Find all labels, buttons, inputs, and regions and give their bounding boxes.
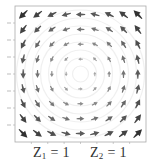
vector-arrow-icon xyxy=(64,87,68,91)
vector-arrow-icon xyxy=(20,114,27,123)
vector-arrow-icon xyxy=(119,130,128,137)
vector-arrow-icon xyxy=(135,40,140,49)
vector-arrow-icon xyxy=(93,87,97,91)
y-tick-label xyxy=(7,56,11,57)
vector-arrow-icon xyxy=(77,42,83,46)
vector-arrow-icon xyxy=(77,116,85,121)
vector-arrow-icon xyxy=(77,102,83,106)
vector-arrow-icon xyxy=(21,40,26,49)
quiver-figure: Z1 = 1 Z2 = 1 xyxy=(0,0,155,167)
y-tick-label xyxy=(7,107,11,108)
caption-z2-value: = 1 xyxy=(104,145,127,160)
vector-arrow-icon xyxy=(134,114,141,123)
vector-arrow-icon xyxy=(104,131,113,136)
caption-z2: Z2 = 1 xyxy=(90,145,127,161)
swirl-ring xyxy=(73,66,89,82)
vector-arrow-icon xyxy=(119,11,128,18)
y-tick-label xyxy=(7,124,11,125)
caption-z1: Z1 = 1 xyxy=(33,145,70,161)
vector-arrow-icon xyxy=(76,131,85,137)
vector-arrow-icon xyxy=(35,70,40,78)
caption-z1-var: Z xyxy=(33,145,42,160)
vector-arrow-icon xyxy=(64,57,68,61)
vector-arrow-icon xyxy=(135,25,142,34)
vector-arrow-icon xyxy=(121,100,126,108)
quiver-plot xyxy=(0,0,155,145)
vector-arrow-icon xyxy=(33,130,42,137)
vector-arrow-icon xyxy=(77,27,85,32)
vector-arrow-icon xyxy=(93,57,97,61)
y-tick-label xyxy=(7,22,11,23)
vector-arrow-icon xyxy=(107,86,111,92)
vector-arrow-icon xyxy=(35,100,40,108)
vector-arrow-icon xyxy=(121,41,126,49)
vector-arrow-icon xyxy=(107,71,111,77)
vector-arrow-icon xyxy=(134,10,143,19)
vector-arrow-icon xyxy=(50,71,54,77)
y-tick-label xyxy=(7,73,11,74)
vector-arrow-icon xyxy=(133,129,142,138)
swirl-ring xyxy=(25,18,137,130)
vector-arrow-icon xyxy=(121,70,126,78)
vector-arrow-icon xyxy=(135,54,140,63)
vector-arrow-icon xyxy=(135,99,140,108)
vector-arrow-icon xyxy=(20,99,25,108)
vector-arrow-icon xyxy=(35,40,40,48)
vector-arrow-icon xyxy=(50,56,54,62)
vector-arrow-icon xyxy=(19,10,28,19)
caption-z2-var: Z xyxy=(90,145,99,160)
y-tick-label xyxy=(7,39,11,40)
vector-arrow-icon xyxy=(19,129,28,138)
vector-arrow-icon xyxy=(20,25,27,34)
vector-arrow-icon xyxy=(20,84,25,93)
vector-arrow-icon xyxy=(76,12,85,18)
swirl-ring xyxy=(57,50,105,98)
swirl-ring xyxy=(65,58,97,90)
caption-z1-value: = 1 xyxy=(47,145,70,160)
y-tick-label xyxy=(7,90,11,91)
swirl-ring xyxy=(33,26,129,122)
vector-arrow-icon xyxy=(33,11,42,18)
swirl-ring xyxy=(49,42,113,106)
vector-arrow-icon xyxy=(47,12,56,17)
